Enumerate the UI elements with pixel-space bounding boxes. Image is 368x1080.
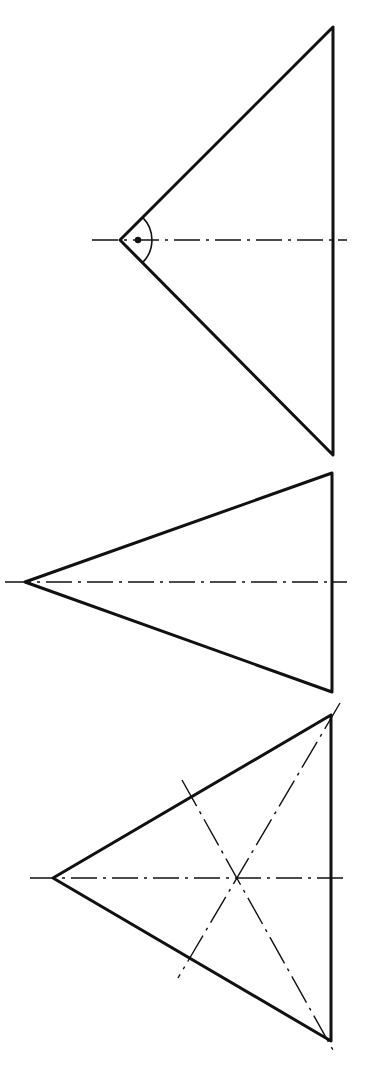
drawing-canvas: [0, 0, 368, 1080]
triangle-1-right-angle: [92, 27, 347, 455]
triangle-3-bisectors: [30, 703, 347, 1050]
triangle-2-acute: [5, 473, 347, 692]
angle-bisector-b: [178, 703, 340, 978]
right-angle-dot-icon: [135, 237, 141, 243]
angle-bisector-a: [182, 780, 333, 1050]
